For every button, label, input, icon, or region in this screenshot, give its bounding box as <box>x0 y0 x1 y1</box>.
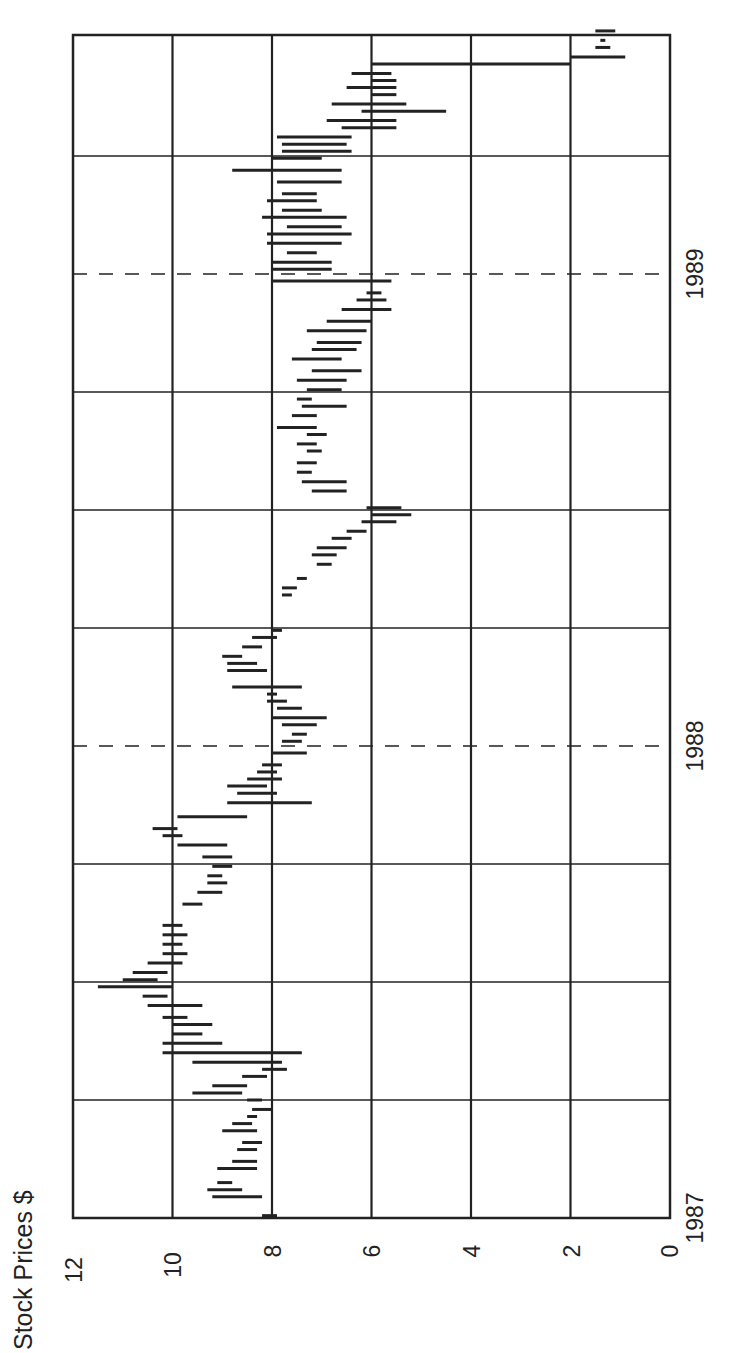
grid-lines <box>73 35 670 1218</box>
xtick-1987: 1987 <box>682 1192 708 1243</box>
ytick-0: 0 <box>657 1245 683 1258</box>
ytick-4: 4 <box>459 1244 485 1257</box>
y-axis-title: Stock Prices $ <box>9 1190 37 1350</box>
high-low-bars <box>98 31 625 1216</box>
xtick-1988: 1988 <box>682 720 708 771</box>
ytick-6: 6 <box>359 1245 385 1258</box>
stock-price-chart: 12 10 8 6 4 2 0 1987 1988 1989 Stock Pri… <box>0 0 737 1353</box>
ytick-2: 2 <box>559 1245 585 1258</box>
ytick-8: 8 <box>260 1245 286 1258</box>
ytick-10: 10 <box>160 1252 186 1278</box>
ytick-12: 12 <box>61 1257 87 1283</box>
xtick-1989: 1989 <box>682 248 708 299</box>
